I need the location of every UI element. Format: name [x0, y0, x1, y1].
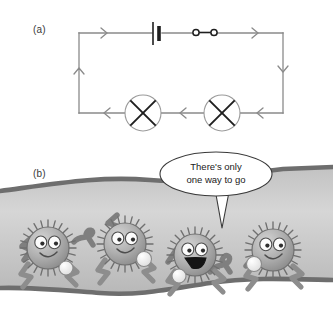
- circuit-diagram-svg: [0, 0, 333, 150]
- figure-root: (a): [0, 0, 333, 317]
- speech-bubble-line2: one way to go: [186, 174, 245, 185]
- charge-ball: [172, 269, 186, 283]
- speech-bubble-line1: There's only: [190, 161, 242, 172]
- charge-ball: [247, 257, 262, 272]
- lamp-left-symbol: [125, 95, 161, 131]
- panel-a-circuit: (a): [0, 0, 333, 150]
- switch-terminal-right: [211, 29, 217, 35]
- switch-symbol: [193, 29, 217, 35]
- charge-ball: [137, 252, 152, 267]
- lamp-right-symbol: [204, 95, 240, 131]
- current-arrows: [74, 28, 288, 118]
- switch-terminal-left: [193, 29, 199, 35]
- panel-b-cartoon: (b): [0, 150, 333, 317]
- cartoon-illustration-svg: There's only one way to go: [0, 150, 333, 317]
- charge-ball: [59, 261, 73, 275]
- battery-symbol: [153, 22, 159, 45]
- circuit-wires: [79, 33, 283, 113]
